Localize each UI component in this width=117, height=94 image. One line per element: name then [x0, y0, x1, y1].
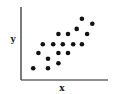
data-point [80, 42, 85, 47]
data-point [61, 42, 66, 47]
data-point [80, 16, 85, 21]
data-point [66, 32, 71, 37]
data-point [90, 22, 95, 27]
y-axis-label: y [9, 34, 16, 44]
data-point [56, 51, 61, 56]
data-point [51, 42, 56, 47]
data-point [31, 66, 36, 71]
data-point [46, 66, 51, 71]
data-point [56, 61, 61, 66]
points-group [31, 16, 95, 70]
data-point [74, 27, 79, 32]
data-point [46, 57, 51, 62]
data-point [41, 42, 46, 47]
data-point [36, 51, 41, 56]
data-point [71, 42, 76, 47]
data-point [85, 32, 90, 37]
data-point [66, 51, 71, 56]
x-axis-label: x [59, 83, 65, 93]
data-point [56, 32, 61, 37]
scatter-chart: y x [0, 0, 117, 94]
